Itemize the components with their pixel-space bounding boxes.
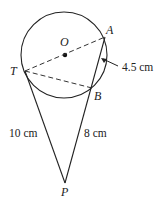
label-T: T (10, 64, 18, 78)
length-AB: 4.5 cm (122, 61, 153, 73)
label-A: A (105, 23, 114, 37)
geometry-diagram: O A T B P 4.5 cm 10 cm 8 cm (0, 0, 165, 206)
length-BP: 8 cm (84, 127, 107, 139)
label-P: P (60, 185, 69, 199)
length-TP: 10 cm (9, 127, 37, 139)
chord-TB (25, 71, 92, 88)
segment-AP (65, 37, 105, 183)
label-O: O (60, 35, 69, 49)
diagram-svg: O A T B P 4.5 cm 10 cm 8 cm (0, 0, 165, 206)
label-B: B (94, 89, 102, 103)
